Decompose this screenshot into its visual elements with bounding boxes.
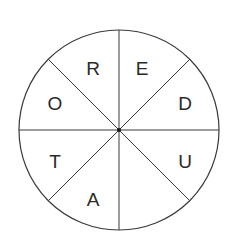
segment-letter-o: O xyxy=(48,93,63,114)
center-dot xyxy=(117,128,121,132)
segment-letter-d: D xyxy=(178,93,192,114)
segment-letter-r: R xyxy=(86,58,100,79)
segment-letter-a: A xyxy=(87,189,100,210)
segment-letter-u: U xyxy=(178,151,192,172)
segment-letter-t: T xyxy=(49,151,61,172)
segment-letter-e: E xyxy=(136,58,149,79)
letter-wheel-diagram: E D U A T O R xyxy=(0,0,230,249)
